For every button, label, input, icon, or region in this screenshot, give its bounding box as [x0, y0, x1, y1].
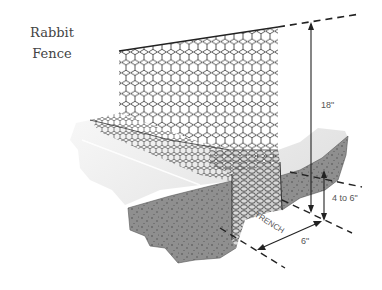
- label-trench-width: 6": [301, 236, 309, 246]
- label-trench-depth: 4 to 6": [332, 193, 358, 203]
- label-fence-height: 18": [321, 100, 334, 110]
- label-trench: TRENCH: [253, 210, 286, 235]
- rabbit-fence-illustration: 18" 4 to 6" 6" TRENCH: [0, 0, 382, 290]
